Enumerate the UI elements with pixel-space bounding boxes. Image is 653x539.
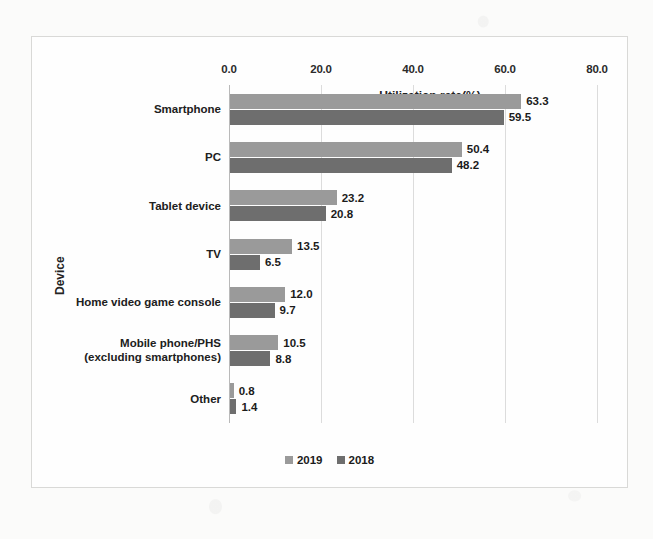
bar-value-label: 6.5 — [265, 256, 281, 268]
legend-item[interactable]: 2018 — [337, 454, 375, 466]
bar-2018: 48.2 — [230, 158, 452, 173]
bar-value-label: 20.8 — [331, 208, 353, 220]
chart-legend: 20192018 — [32, 454, 627, 466]
legend-label: 2018 — [349, 454, 375, 466]
gridline — [597, 85, 598, 423]
bar-value-label: 10.5 — [283, 337, 305, 349]
bar-2019: 12.0 — [230, 287, 285, 302]
bar-value-label: 59.5 — [509, 111, 531, 123]
category-label: PC — [205, 150, 221, 165]
bar-2019: 10.5 — [230, 335, 278, 350]
bar-group: Mobile phone/PHS(excluding smartphones)1… — [229, 335, 597, 366]
category-label: Home video game console — [76, 295, 221, 310]
bar-value-label: 8.8 — [275, 353, 291, 365]
bar-2018: 59.5 — [230, 110, 504, 125]
bar-value-label: 0.8 — [239, 385, 255, 397]
bar-group: PC50.448.2 — [229, 142, 597, 173]
plot-area: 0.020.040.060.080.0 Smartphone63.359.5PC… — [229, 85, 597, 423]
bar-2019: 63.3 — [230, 94, 521, 109]
category-label: Smartphone — [154, 102, 221, 117]
bar-2018: 6.5 — [230, 255, 260, 270]
bar-2019: 23.2 — [230, 190, 337, 205]
bar-2019: 0.8 — [230, 383, 234, 398]
y-axis-title: Device — [53, 256, 67, 295]
category-label: Mobile phone/PHS(excluding smartphones) — [84, 336, 221, 365]
x-axis-tick-label: 0.0 — [221, 63, 236, 75]
bar-value-label: 13.5 — [297, 240, 319, 252]
legend-item[interactable]: 2019 — [285, 454, 323, 466]
bar-group: Home video game console12.09.7 — [229, 287, 597, 318]
bar-value-label: 9.7 — [280, 304, 296, 316]
category-label: Tablet device — [149, 198, 221, 213]
bar-value-label: 12.0 — [290, 288, 312, 300]
x-axis-tick-label: 60.0 — [494, 63, 516, 75]
bar-value-label: 23.2 — [342, 192, 364, 204]
bar-2018: 20.8 — [230, 206, 326, 221]
bar-value-label: 48.2 — [457, 159, 479, 171]
x-axis-tick-label: 80.0 — [586, 63, 608, 75]
bar-2018: 9.7 — [230, 303, 275, 318]
x-axis-tick-label: 20.0 — [310, 63, 332, 75]
legend-swatch — [285, 456, 293, 464]
bar-group: Smartphone63.359.5 — [229, 94, 597, 125]
bar-2018: 1.4 — [230, 399, 236, 414]
bar-2018: 8.8 — [230, 351, 270, 366]
bar-2019: 13.5 — [230, 239, 292, 254]
legend-label: 2019 — [297, 454, 323, 466]
bar-2019: 50.4 — [230, 142, 462, 157]
bar-group: Other0.81.4 — [229, 383, 597, 414]
chart-frame: Utilization rate(%) Device 0.020.040.060… — [31, 36, 628, 488]
bar-value-label: 63.3 — [526, 95, 548, 107]
x-axis-tick-label: 40.0 — [402, 63, 424, 75]
category-label: TV — [206, 247, 221, 262]
bar-value-label: 50.4 — [467, 143, 489, 155]
bar-group: TV13.56.5 — [229, 239, 597, 270]
category-label: Other — [190, 391, 221, 406]
legend-swatch — [337, 456, 345, 464]
bar-group: Tablet device23.220.8 — [229, 190, 597, 221]
bar-value-label: 1.4 — [241, 401, 257, 413]
